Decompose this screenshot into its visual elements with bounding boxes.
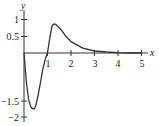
y-tick-label: 1 — [14, 14, 19, 25]
x-tick-label: 4 — [116, 58, 121, 69]
x-tick-label: 2 — [69, 58, 74, 69]
x-tick-labels: 1 2 3 4 5 — [46, 58, 145, 69]
x-tick-label: 1 — [46, 58, 51, 69]
y-tick-labels: 1 0.5 −1.5 −2 — [1, 14, 19, 123]
y-tick-label: −2 — [8, 112, 19, 123]
x-tick-label: 5 — [140, 58, 145, 69]
x-axis-label: x — [149, 47, 155, 58]
data-curve — [24, 24, 142, 109]
y-tick-label: −1.5 — [1, 96, 19, 107]
chart: y x 1 2 3 4 5 1 0.5 −1.5 −2 — [0, 0, 159, 126]
x-tick-label: 3 — [93, 58, 98, 69]
y-tick-label: 0.5 — [7, 31, 20, 42]
y-axis-label: y — [20, 0, 26, 11]
